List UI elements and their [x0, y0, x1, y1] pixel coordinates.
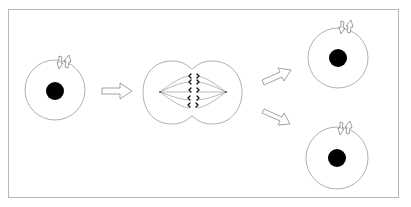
mitosis-diagram	[0, 0, 411, 207]
spindle-pole	[159, 91, 161, 93]
diagram-canvas	[0, 0, 411, 207]
nucleus	[329, 49, 347, 67]
nucleus	[328, 149, 346, 167]
nucleus	[46, 82, 64, 100]
spindle-pole	[225, 91, 227, 93]
diagram-frame	[9, 10, 399, 198]
